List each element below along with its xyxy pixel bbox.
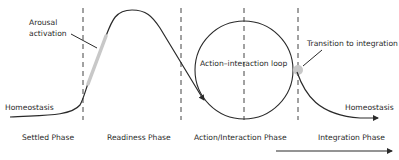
activation-label: activation xyxy=(29,29,67,38)
homeostasis-right-label: Homeostasis xyxy=(345,103,394,112)
arousal-activation-highlight xyxy=(88,36,106,84)
transition-leader-line xyxy=(303,50,322,66)
arousal-label: Arousal xyxy=(29,18,57,27)
arousal-leader-line xyxy=(71,34,97,48)
homeostasis-left-label: Homeostasis xyxy=(5,103,54,112)
phase-settled: Settled Phase xyxy=(22,133,74,142)
transition-label: Transition to integration xyxy=(306,39,398,48)
loop-label: Action–interaction loop xyxy=(200,59,287,68)
phase-action-interaction: Action/Interaction Phase xyxy=(194,133,287,142)
arousal-phase-diagram: Arousal activation Homeostasis Action–in… xyxy=(0,0,399,160)
phase-integration: Integration Phase xyxy=(318,133,385,142)
phase-readiness: Readiness Phase xyxy=(107,133,171,142)
